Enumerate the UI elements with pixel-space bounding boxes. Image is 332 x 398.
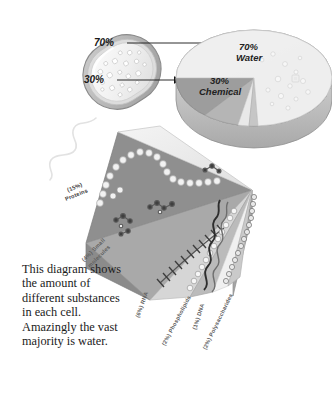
pie-chart-dish: 70% Water 30% Chemical bbox=[176, 30, 332, 148]
capsule-water-pct: 70% bbox=[94, 37, 114, 48]
label-dna: (1%) DNA bbox=[191, 303, 205, 331]
capsule-chemical-pct: 30% bbox=[84, 74, 104, 85]
label-phospholipids: (2%) Phospholipids bbox=[161, 295, 192, 347]
bacterial-cell bbox=[70, 22, 174, 123]
pie-water-name: Water bbox=[236, 52, 264, 63]
label-rna: (6%) RNA bbox=[134, 291, 149, 319]
pie-chemical-pct: 30% bbox=[210, 75, 230, 86]
flagellum-icon bbox=[50, 118, 96, 180]
pie-water-pct: 70% bbox=[239, 41, 259, 52]
label-polysaccharides: (2%) Polysaccharides bbox=[202, 293, 234, 351]
diagram-canvas: 70% 30% bbox=[0, 0, 332, 398]
caption-text: This diagram shows the amount of differe… bbox=[22, 262, 126, 348]
pie-chemical-name: Chemical bbox=[199, 86, 242, 97]
